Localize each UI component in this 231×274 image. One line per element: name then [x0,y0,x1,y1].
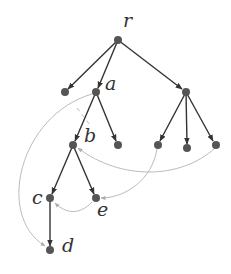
node-b [69,141,77,149]
node-c [46,194,54,202]
node-a-right-child [114,141,122,149]
tree-diagram: r a b c e d [0,0,231,274]
label-r: r [123,9,134,31]
node-right-child-2 [183,144,191,152]
labels: r a b c e d [32,9,134,256]
edge-n3-n3a [160,92,186,141]
node-right-child-1 [154,141,162,149]
dashed-edge-n3c-b [78,148,215,172]
label-b: b [84,124,96,146]
node-a [92,88,100,96]
node-d [46,246,54,254]
label-a: a [105,72,116,94]
node-r [114,36,122,44]
node-right [182,88,190,96]
edge-b-c [52,145,73,194]
node-left-leaf [61,88,69,96]
label-d: d [62,234,74,256]
dashed-edges [19,94,215,246]
edge-n3-n3c [186,92,213,141]
label-e: e [97,198,108,220]
edge-r-n3 [118,40,182,89]
node-right-child-3 [212,141,220,149]
edge-a-a2 [96,92,116,141]
dashed-edge-n3a-e [101,149,157,198]
edge-n3-n3b [186,92,187,144]
nodes [46,36,220,254]
diagram-svg: r a b c e d [0,0,231,274]
dashed-edge-e-c [55,202,92,212]
label-c: c [32,186,43,208]
dashed-edge-a-d [19,94,92,246]
